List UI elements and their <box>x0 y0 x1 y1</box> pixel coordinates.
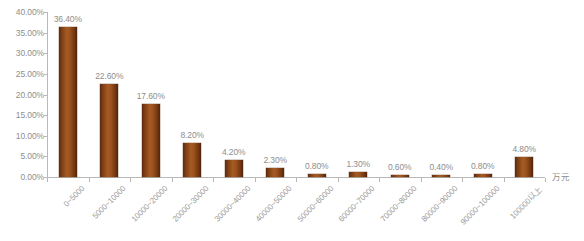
x-axis-category-label: 100000以上 <box>507 184 544 221</box>
bar[interactable] <box>474 174 492 177</box>
bar-slot: 36.40% <box>47 12 89 177</box>
x-axis-tick-mark <box>47 178 48 182</box>
x-axis-unit-label: 万元 <box>552 170 570 182</box>
x-axis-category-label: 40000~50000 <box>254 184 294 224</box>
y-axis-tick-label: 15.00% <box>16 110 44 120</box>
bar-value-label: 8.20% <box>180 130 204 140</box>
x-axis-tick-mark <box>421 178 422 182</box>
y-axis-tick-label: 0.00% <box>20 172 44 182</box>
x-axis-category-label: 5000~10000 <box>91 184 128 221</box>
y-axis-tick-label: 30.00% <box>16 48 44 58</box>
x-axis-tick-mark <box>130 178 131 182</box>
bar-chart: 0.00%5.00%10.00%15.00%20.00%25.00%30.00%… <box>0 0 584 241</box>
bar-slot: 2.30% <box>255 12 297 177</box>
bar[interactable] <box>225 160 243 177</box>
bar-value-label: 0.40% <box>429 162 453 172</box>
x-axis-tick-mark <box>545 178 546 182</box>
x-axis-category-label: 80000~90000 <box>420 184 460 224</box>
bar[interactable] <box>59 27 77 177</box>
bar-value-label: 0.80% <box>305 161 329 171</box>
bar-slot: 1.30% <box>338 12 380 177</box>
x-axis-category-label: 70000~80000 <box>379 184 419 224</box>
bar[interactable] <box>183 143 201 177</box>
y-axis-tick-label: 20.00% <box>16 90 44 100</box>
bar-slot: 22.60% <box>89 12 131 177</box>
x-axis-tick-mark <box>338 178 339 182</box>
x-axis-tick-mark <box>89 178 90 182</box>
x-axis-category-label: 90000~100000 <box>459 184 502 227</box>
bar[interactable] <box>266 168 284 177</box>
x-axis-tick-mark <box>172 178 173 182</box>
y-axis-tick-label: 40.00% <box>16 7 44 17</box>
bar[interactable] <box>349 172 367 177</box>
bar-slot: 4.20% <box>213 12 255 177</box>
bar-value-label: 36.40% <box>54 14 82 24</box>
x-axis-tick-mark <box>462 178 463 182</box>
bar-value-label: 0.80% <box>471 161 495 171</box>
x-axis-category-label: 10000~20000 <box>130 184 170 224</box>
x-axis-category-label: 0~5000 <box>62 184 87 209</box>
bar[interactable] <box>515 157 533 177</box>
bar-slot: 0.80% <box>296 12 338 177</box>
x-axis-category-label: 30000~40000 <box>213 184 253 224</box>
bar-slot: 0.80% <box>462 12 504 177</box>
bar[interactable] <box>432 175 450 178</box>
bar-value-label: 1.30% <box>346 159 370 169</box>
bar[interactable] <box>142 104 160 177</box>
bar-value-label: 0.60% <box>388 162 412 172</box>
bar-value-label: 17.60% <box>137 91 165 101</box>
plot-area: 36.40%22.60%17.60%8.20%4.20%2.30%0.80%1.… <box>47 12 545 177</box>
bar-slot: 0.60% <box>379 12 421 177</box>
y-axis-tick-label: 5.00% <box>20 151 44 161</box>
x-axis-tick-mark <box>213 178 214 182</box>
x-axis-tick-mark <box>379 178 380 182</box>
x-axis-category-label: 60000~70000 <box>337 184 377 224</box>
x-axis-tick-mark <box>255 178 256 182</box>
bar-value-label: 4.20% <box>222 147 246 157</box>
bar-slot: 8.20% <box>172 12 214 177</box>
bar[interactable] <box>391 175 409 178</box>
bar-value-label: 4.80% <box>512 144 536 154</box>
bar-slot: 4.80% <box>504 12 546 177</box>
y-axis-tick-label: 25.00% <box>16 69 44 79</box>
y-axis-tick-label: 10.00% <box>16 131 44 141</box>
x-axis-category-label: 50000~60000 <box>296 184 336 224</box>
bar-value-label: 2.30% <box>263 155 287 165</box>
x-axis-tick-mark <box>296 178 297 182</box>
x-axis-category-label: 20000~30000 <box>171 184 211 224</box>
bar[interactable] <box>100 84 118 177</box>
x-axis-tick-mark <box>504 178 505 182</box>
bar-value-label: 22.60% <box>95 71 123 81</box>
bar[interactable] <box>308 174 326 177</box>
bar-slot: 0.40% <box>421 12 463 177</box>
y-axis-tick-label: 35.00% <box>16 28 44 38</box>
bar-slot: 17.60% <box>130 12 172 177</box>
